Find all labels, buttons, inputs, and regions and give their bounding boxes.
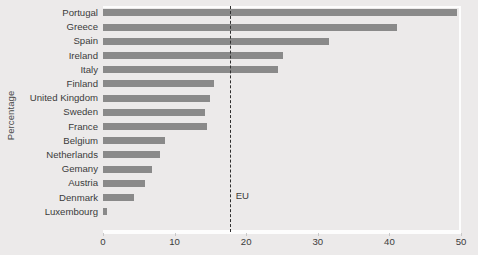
category-label: Denmark: [59, 191, 98, 205]
bar-row: Italy: [0, 63, 478, 77]
bar-row: France: [0, 120, 478, 134]
bar: [103, 137, 165, 144]
bar-row: Sweden: [0, 105, 478, 119]
eu-average-line: [230, 6, 231, 232]
bar: [103, 180, 145, 187]
bar-row: Greece: [0, 20, 478, 34]
bar-row: Ireland: [0, 49, 478, 63]
category-label: Italy: [80, 63, 98, 77]
x-axis-tick-label: 0: [100, 236, 105, 247]
category-label: Belgium: [63, 134, 98, 148]
x-axis-tick-label: 30: [312, 236, 323, 247]
bar-row: Netherlands: [0, 148, 478, 162]
bar-row: Spain: [0, 34, 478, 48]
bar-chart: Percentage PortugalGreeceSpainIrelandIta…: [0, 0, 478, 255]
category-label: Netherlands: [46, 148, 98, 162]
category-label: Sweden: [63, 105, 98, 119]
bar-row: United Kingdom: [0, 91, 478, 105]
bar: [103, 52, 283, 59]
bar: [103, 80, 214, 87]
category-label: Luxembourg: [45, 205, 98, 219]
category-label: Austria: [68, 176, 98, 190]
bar-row: Luxembourg: [0, 205, 478, 219]
bar-row: Gemany: [0, 162, 478, 176]
category-label: Greece: [67, 20, 98, 34]
bar: [103, 9, 457, 16]
category-label: United Kingdom: [30, 91, 98, 105]
x-axis-tick-label: 10: [169, 236, 180, 247]
x-axis-tick-label: 40: [384, 236, 395, 247]
category-label: France: [68, 120, 98, 134]
bar-row: Finland: [0, 77, 478, 91]
category-label: Portugal: [62, 6, 98, 20]
category-label: Ireland: [69, 49, 98, 63]
bar: [103, 166, 152, 173]
bar: [103, 95, 210, 102]
category-label: Finland: [67, 77, 98, 91]
bar-row: Belgium: [0, 134, 478, 148]
x-axis-tick-label: 20: [241, 236, 252, 247]
category-label: Gemany: [62, 162, 98, 176]
bar: [103, 194, 134, 201]
bar: [103, 123, 207, 130]
x-axis-tick-label: 50: [456, 236, 467, 247]
bar: [103, 208, 107, 215]
bar: [103, 24, 397, 31]
bar-row: Austria: [0, 176, 478, 190]
bar: [103, 66, 278, 73]
category-label: Spain: [73, 34, 98, 48]
x-axis-line: [103, 232, 461, 234]
bar: [103, 151, 160, 158]
bar: [103, 38, 329, 45]
bar: [103, 109, 205, 116]
eu-average-line-label: EU: [236, 190, 249, 201]
bar-row: Portugal: [0, 6, 478, 20]
